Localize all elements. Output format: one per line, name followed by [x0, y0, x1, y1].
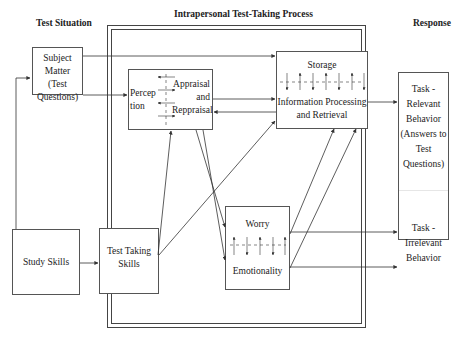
worry-inner-arrows: [230, 237, 286, 255]
arrow-testtaking-to-appraisal: [158, 131, 171, 255]
arrow-appraisal-to-emotionality: [203, 130, 225, 260]
arrow-emotionality-to-storage: [290, 129, 356, 268]
arrow-testtaking-to-storage: [159, 121, 275, 255]
arrow-appraisal-to-worry: [196, 130, 225, 227]
connector-layer: [0, 0, 458, 338]
storage-inner-arrows: [280, 73, 364, 90]
arrow-study-to-subject: [16, 78, 30, 229]
arrow-worry-to-storage: [290, 129, 334, 234]
